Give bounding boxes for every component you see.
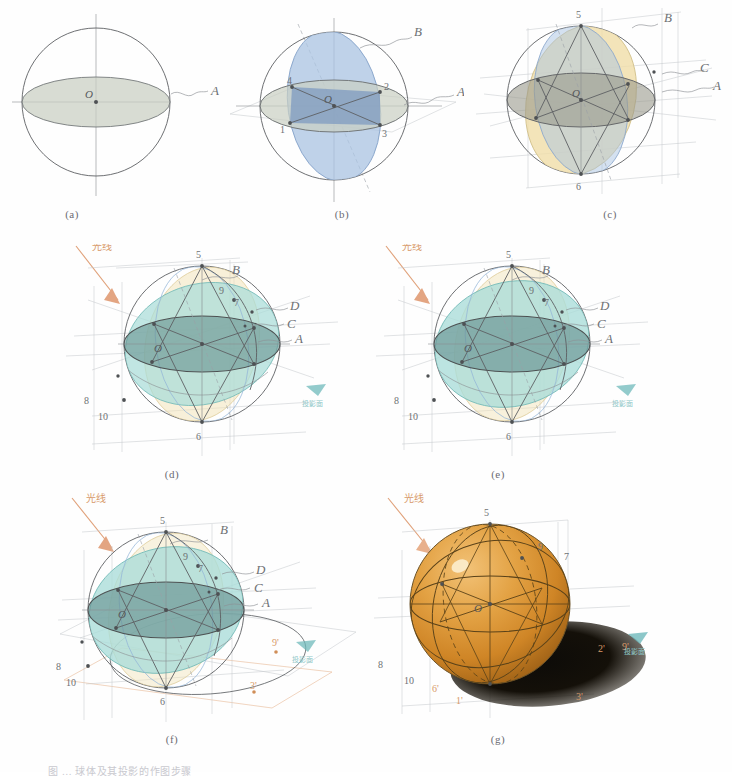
point-5-dot bbox=[579, 24, 583, 28]
projection-note-e: 投影面 bbox=[612, 384, 636, 408]
point-2-dot bbox=[378, 90, 382, 94]
panel-g: 光线 bbox=[372, 492, 702, 727]
point-1-dot-e bbox=[460, 360, 464, 364]
projection-note-f: 投影面 bbox=[292, 640, 316, 664]
axis-note-label-e: 投影面 bbox=[612, 399, 633, 408]
point-label-8-g: 8 bbox=[378, 659, 383, 670]
point-5-dot-d bbox=[200, 264, 204, 268]
axis-note-label: 投影面 bbox=[302, 399, 323, 408]
point-10-dot-d bbox=[122, 398, 126, 402]
point-2-dot-c bbox=[626, 82, 630, 86]
point-label-5-d: 5 bbox=[196, 249, 201, 260]
leader-a bbox=[171, 91, 208, 96]
point-label-10-e: 10 bbox=[408, 411, 418, 422]
point-label-10-g: 10 bbox=[404, 675, 414, 686]
point-1-dot-f bbox=[114, 626, 118, 630]
light-ray-arrow bbox=[76, 246, 120, 304]
point-label-10-d: 10 bbox=[98, 411, 108, 422]
point-1-dot-d bbox=[150, 360, 154, 364]
point-label-9-d: 9 bbox=[219, 285, 224, 296]
center-label-d: O bbox=[154, 342, 162, 354]
point-5-dot-e bbox=[510, 264, 514, 268]
shadow-label-3-g: 3' bbox=[576, 691, 583, 702]
label-a-d: A bbox=[294, 331, 303, 346]
point-3-dot-d bbox=[252, 362, 256, 366]
point-9-dot-g bbox=[520, 556, 524, 560]
leader-b-c bbox=[632, 24, 658, 28]
point-3-dot-e bbox=[562, 362, 566, 366]
point-label-6-e: 6 bbox=[506, 431, 511, 442]
figure-title-caption: 图 … 球体及其投影的作图步骤 bbox=[48, 763, 192, 778]
point-label-8-e: 8 bbox=[394, 395, 399, 406]
point-label-10-f: 10 bbox=[66, 677, 76, 688]
point-label-3: 3 bbox=[382, 128, 387, 139]
axis-note-label-g: 投影面 bbox=[624, 647, 645, 656]
caption-b: (b) bbox=[322, 208, 362, 220]
caption-a: (a) bbox=[52, 208, 92, 220]
panel-d: 光线 bbox=[62, 244, 362, 464]
point-label-9-f: 9 bbox=[183, 551, 188, 562]
point-label-8-f: 8 bbox=[56, 661, 61, 672]
center-label: O bbox=[85, 88, 93, 100]
point-3-dot-f bbox=[216, 628, 220, 632]
shadow-label-6-g: 6' bbox=[432, 683, 439, 694]
caption-e: (e) bbox=[478, 468, 518, 480]
label-d-e: D bbox=[599, 298, 610, 313]
light-note-label: 光线 bbox=[92, 244, 112, 252]
point-4-dot-e bbox=[462, 322, 466, 326]
label-c-c: C bbox=[700, 60, 709, 75]
point-8-dot-e bbox=[426, 374, 429, 377]
center-label-e: O bbox=[464, 342, 472, 354]
point-7-dot-d bbox=[250, 310, 253, 313]
label-c-f: C bbox=[254, 580, 263, 595]
label-d-f: D bbox=[255, 562, 266, 577]
point-1-dot-c bbox=[534, 116, 538, 120]
point-10-dot-e bbox=[432, 398, 436, 402]
center-point bbox=[94, 100, 98, 104]
point-label-4: 4 bbox=[287, 75, 292, 86]
point-2-dot-e bbox=[562, 326, 566, 330]
point-label-7-d: 7 bbox=[234, 297, 239, 308]
aux-dot-e bbox=[554, 325, 557, 328]
shadow-label-9: 9' bbox=[272, 637, 279, 648]
point-label-6-d: 6 bbox=[196, 431, 201, 442]
caption-f: (f) bbox=[152, 733, 192, 745]
caption-c: (c) bbox=[590, 208, 630, 220]
center-point-d bbox=[200, 342, 204, 346]
point-6-dot-f bbox=[164, 686, 168, 690]
label-c-e: C bbox=[597, 316, 606, 331]
light-ray-arrow-f bbox=[72, 498, 114, 552]
aux-dot-f bbox=[208, 591, 211, 594]
point-7-dot-c bbox=[652, 70, 655, 73]
projection-note-d: 投影面 bbox=[302, 384, 326, 408]
point-6-dot-g bbox=[488, 682, 492, 686]
shadow-label-2-g: 2' bbox=[598, 643, 605, 654]
leader-b bbox=[360, 37, 412, 48]
label-d-d: D bbox=[289, 298, 300, 313]
leader-a-c bbox=[662, 87, 714, 92]
label-b-f: B bbox=[220, 522, 228, 537]
center-label-f: O bbox=[118, 608, 126, 620]
label-b: B bbox=[414, 24, 422, 39]
point-label-9-g: 9 bbox=[538, 541, 543, 552]
center-point-b bbox=[332, 104, 336, 108]
label-b-c: B bbox=[664, 10, 672, 25]
point-1-dot bbox=[288, 121, 292, 125]
light-note-label-e: 光线 bbox=[402, 244, 422, 252]
point-label-7-f: 7 bbox=[198, 563, 203, 574]
leader-c-c bbox=[662, 70, 704, 74]
label-a-e: A bbox=[604, 331, 613, 346]
point-4-dot-d bbox=[152, 322, 156, 326]
shadow-point-9-dot bbox=[274, 650, 278, 654]
point-label-5-c: 5 bbox=[576, 9, 581, 20]
center-point-f bbox=[164, 608, 168, 612]
light-ray-arrow-g bbox=[388, 498, 432, 554]
label-b-d: B bbox=[232, 262, 240, 277]
point-4-dot-g bbox=[440, 582, 444, 586]
point-label-5-e: 5 bbox=[506, 249, 511, 260]
point-8-dot-f bbox=[80, 640, 83, 643]
panel-b: 4 2 1 3 O B A bbox=[214, 6, 464, 211]
panel-a: O A bbox=[8, 6, 238, 206]
label-a-c: A bbox=[712, 78, 721, 93]
axis-note-label-f: 投影面 bbox=[292, 655, 313, 664]
